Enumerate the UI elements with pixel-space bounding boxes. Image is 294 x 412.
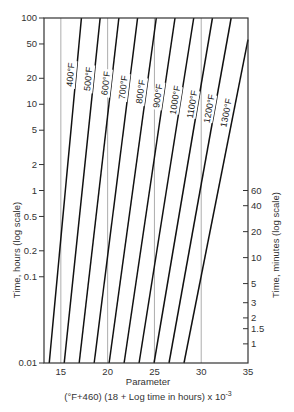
y-axis-title-left: Time, hours (log scale) xyxy=(11,202,22,298)
x-tick-label: 30 xyxy=(196,366,207,377)
y-axis-hours: 1005020105210.50.20.10.01 xyxy=(19,12,45,368)
minutes-tick-label: 1 xyxy=(251,338,256,349)
y-tick-label: 0.2 xyxy=(24,245,37,256)
x-tick-label: 15 xyxy=(56,366,67,377)
y-tick-label: 20 xyxy=(26,72,37,83)
y-tick-label: 1 xyxy=(32,185,37,196)
x-axis-formula: (°F+460) (18 + Log time in hours) x 10-3 xyxy=(64,390,232,402)
y-tick-label: 0.5 xyxy=(24,211,37,222)
y-tick-label: 50 xyxy=(26,38,37,49)
larson-miller-chart: 400°F500°F600°F700°F800°F900°F1000°F1100… xyxy=(0,0,294,412)
x-tick-label: 20 xyxy=(102,366,113,377)
minutes-tick-label: 2 xyxy=(251,312,256,323)
minutes-tick-label: 3 xyxy=(251,297,256,308)
y-tick-label: 0.01 xyxy=(19,357,38,368)
x-axis-title: Parameter xyxy=(126,376,170,387)
y-tick-label: 5 xyxy=(32,124,37,135)
minutes-tick-label: 5 xyxy=(251,278,256,289)
minutes-tick-label: 40 xyxy=(251,200,262,211)
y-tick-label: 10 xyxy=(26,98,37,109)
line-1000f xyxy=(139,18,194,363)
y-tick-label: 100 xyxy=(21,12,37,23)
x-tick-label: 35 xyxy=(243,366,254,377)
y-axis-minutes: 604020105321.51 xyxy=(243,185,264,349)
line-1300f xyxy=(184,40,248,363)
temperature-lines xyxy=(49,18,248,363)
minutes-tick-label: 60 xyxy=(251,185,262,196)
y-axis-title-right: Time, minutes (log scale) xyxy=(270,192,281,298)
minutes-tick-label: 20 xyxy=(251,226,262,237)
line-1200f xyxy=(169,18,231,363)
minutes-tick-label: 10 xyxy=(251,252,262,263)
y-tick-label: 0.1 xyxy=(24,271,37,282)
y-tick-label: 2 xyxy=(32,159,37,170)
line-1100f xyxy=(154,18,212,363)
minutes-tick-label: 1.5 xyxy=(251,323,264,334)
